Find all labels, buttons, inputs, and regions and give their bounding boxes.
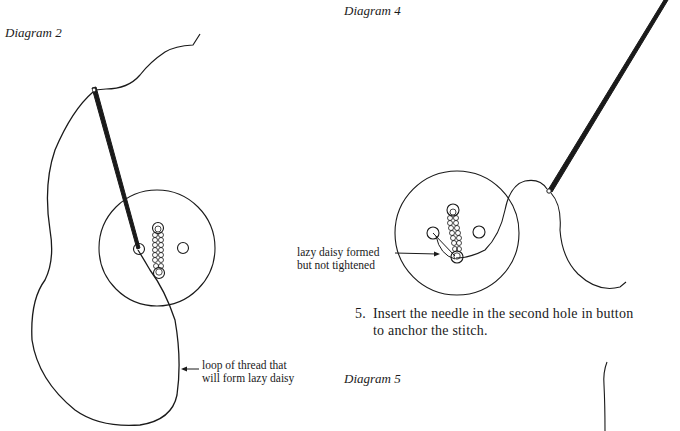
chain-stitch bbox=[448, 209, 462, 259]
step-text-line-2: to anchor the stitch. bbox=[373, 322, 680, 339]
callout-line-2: will form lazy daisy bbox=[202, 372, 294, 385]
callout-line-2: but not tightened bbox=[297, 259, 379, 272]
step-text-line-1: Insert the needle in the second hole in … bbox=[373, 305, 680, 322]
button-hole-right bbox=[473, 226, 485, 238]
step-5-instruction: 5. Insert the needle in the second hole … bbox=[355, 305, 680, 339]
thread-tail bbox=[551, 193, 626, 288]
diagram-4-callout: lazy daisy formed but not tightened bbox=[297, 246, 379, 272]
diagram-2-callout: loop of thread that will form lazy daisy bbox=[202, 359, 294, 385]
diagram-2-caption: Diagram 2 bbox=[5, 25, 62, 41]
diagram-4-caption: Diagram 4 bbox=[344, 3, 401, 19]
thread bbox=[604, 362, 607, 431]
needle bbox=[92, 87, 140, 249]
diagram-2-illustration bbox=[32, 34, 215, 425]
callout-line-1: loop of thread that bbox=[202, 359, 294, 372]
diagram-4-illustration bbox=[395, 0, 668, 295]
button bbox=[395, 171, 519, 295]
button-hole-right bbox=[178, 243, 189, 254]
illustrations bbox=[0, 0, 680, 431]
callout-arrow-line bbox=[395, 253, 437, 254]
thread-loop bbox=[456, 180, 547, 258]
callout-line-1: lazy daisy formed bbox=[297, 246, 379, 259]
needle bbox=[548, 0, 668, 192]
step-number: 5. bbox=[355, 305, 366, 322]
diagram-5-illustration bbox=[604, 362, 607, 431]
thread-tail bbox=[95, 34, 200, 90]
diagram-5-caption: Diagram 5 bbox=[344, 371, 401, 387]
button-hole-top bbox=[447, 204, 459, 216]
